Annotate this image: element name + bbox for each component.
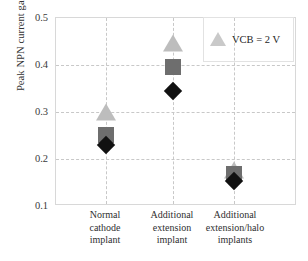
y-axis-tick-labels: 0.5 0.4 0.3 0.2 0.1 [0, 17, 52, 205]
x-category-line-1: Additional [188, 209, 282, 222]
gridline-y-0.2 [56, 159, 295, 160]
chart-figure: Peak NPN current gain 0.5 0.4 0.3 0.2 0.… [0, 0, 308, 261]
y-tick-label-0.5: 0.5 [35, 12, 48, 23]
data-point-diamond-additional-extension-implant [164, 82, 182, 100]
x-category-additional-extension-halo-implants: Additional extension/halo implants [188, 209, 282, 247]
data-point-triangle-normal-cathode-implant [96, 104, 116, 121]
legend-entry-vcb: VCB = 2 V [210, 32, 280, 46]
legend: VCB = 2 V [203, 17, 294, 62]
data-point-square-additional-extension-implant [165, 59, 181, 75]
data-point-triangle-additional-extension-implant [163, 35, 183, 52]
x-category-line-2: extension/halo [188, 222, 282, 235]
x-category-line-3: implants [188, 234, 282, 247]
y-tick-label-0.2: 0.2 [35, 153, 48, 164]
triangle-icon [210, 32, 226, 46]
x-axis-category-labels: Normal cathode implant Additional extens… [55, 209, 296, 259]
gridline-y-0.3 [56, 112, 295, 113]
legend-entry-label: VCB = 2 V [232, 34, 280, 45]
y-tick-label-0.3: 0.3 [35, 106, 48, 117]
y-tick-label-0.4: 0.4 [35, 59, 48, 70]
y-tick-label-0.1: 0.1 [35, 200, 48, 211]
